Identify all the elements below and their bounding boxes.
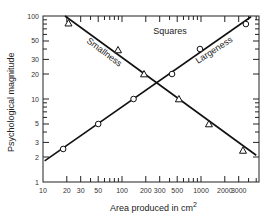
circle-marker-icon — [169, 71, 175, 77]
y-axis-label: Psychological magnitude — [6, 52, 16, 152]
x-tick-label: 20 — [63, 187, 71, 194]
x-tick-label: 10 — [39, 187, 47, 194]
y-tick-label: 30 — [31, 56, 39, 63]
y-tick-label: 100 — [27, 13, 39, 20]
triangle-marker-icon — [115, 46, 122, 52]
x-tick-label: 200 — [140, 187, 152, 194]
chart: 10203050100200300500100020003000 1235102… — [0, 0, 273, 218]
y-tick-label: 2 — [35, 154, 39, 161]
largeness-line — [45, 17, 251, 161]
x-tick-label: 3000 — [231, 187, 247, 194]
x-tick-label: 50 — [94, 187, 102, 194]
x-tick-label: 300 — [154, 187, 166, 194]
y-tick-label: 10 — [31, 96, 39, 103]
x-tick-label: 30 — [77, 187, 85, 194]
circle-marker-icon — [243, 21, 249, 27]
x-tick-label: 100 — [116, 187, 128, 194]
x-axis-label-text: Area produced in cm — [110, 203, 193, 213]
y-tick-label: 50 — [31, 37, 39, 44]
y-tick-label: 5 — [35, 120, 39, 127]
x-axis-label-superscript: 2 — [193, 201, 197, 208]
circle-marker-icon — [95, 121, 101, 127]
circle-marker-icon — [131, 96, 137, 102]
x-axis-label: Area produced in cm2 — [110, 201, 197, 213]
y-tick-label: 3 — [35, 139, 39, 146]
circle-marker-icon — [60, 146, 66, 152]
y-tick-label: 1 — [35, 179, 39, 186]
triangle-marker-icon — [205, 120, 212, 126]
y-tick-label: 20 — [31, 71, 39, 78]
chart-title: Squares — [153, 26, 187, 36]
x-tick-label: 500 — [171, 187, 183, 194]
x-tick-label: 1000 — [193, 187, 209, 194]
